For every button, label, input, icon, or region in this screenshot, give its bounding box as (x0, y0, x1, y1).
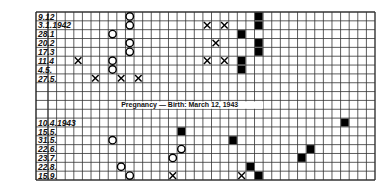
filled-square-mark (255, 39, 263, 47)
circle-mark (117, 163, 124, 170)
cross-mark (221, 22, 228, 29)
circle-mark (126, 172, 133, 179)
circle-mark (178, 145, 185, 152)
circle-mark (109, 66, 116, 73)
row-label: 15.9. (38, 171, 57, 181)
filled-square-mark (246, 163, 254, 171)
circle-mark (109, 30, 116, 37)
circle-mark (126, 13, 133, 20)
filled-square-mark (238, 30, 246, 38)
cross-mark (204, 22, 211, 29)
annotation: Pregnancy — Birth: March 12, 1943 (119, 101, 263, 109)
cross-mark (221, 57, 228, 64)
circle-mark (109, 137, 116, 144)
circle-mark (169, 154, 176, 161)
cross-mark (238, 172, 245, 179)
filled-square-mark (229, 136, 237, 144)
filled-square-mark (255, 13, 263, 21)
cross-mark (118, 75, 125, 82)
filled-square-mark (238, 57, 246, 65)
circle-mark (126, 48, 133, 55)
cross-mark (204, 57, 211, 64)
circle-mark (126, 39, 133, 46)
filled-square-mark (341, 119, 349, 127)
filled-square-mark (307, 145, 315, 153)
circle-mark (126, 22, 133, 29)
pregnancy-annotation: Pregnancy — Birth: March 12, 1943 (121, 101, 238, 109)
filled-square-mark (238, 66, 246, 74)
cross-mark (169, 172, 176, 179)
filled-square-mark (298, 154, 306, 162)
row-label: 27.5. (37, 74, 57, 84)
grid-lines (36, 12, 375, 180)
cross-mark (135, 75, 142, 82)
chart: 9.123.1.194228.120.217.311.44.5.27.5.10.… (0, 0, 387, 191)
filled-square-mark (178, 127, 186, 135)
cross-mark (213, 40, 220, 47)
cross-mark (75, 57, 82, 64)
circle-mark (109, 57, 116, 64)
filled-square-mark (255, 172, 263, 180)
filled-square-mark (255, 48, 263, 56)
cross-mark (92, 75, 99, 82)
filled-square-mark (255, 21, 263, 29)
